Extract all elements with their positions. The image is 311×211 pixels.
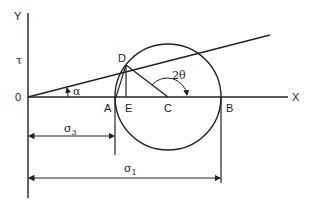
origin-label: 0 bbox=[15, 91, 21, 103]
point-d-label: D bbox=[118, 52, 126, 64]
sigma3-label: σ3 bbox=[64, 122, 77, 137]
x-axis-label: X bbox=[292, 91, 300, 103]
sigma3-subscript: 3 bbox=[72, 128, 77, 137]
y-axis-label: Y bbox=[14, 10, 22, 22]
tangent-line bbox=[28, 35, 270, 97]
alpha-label: α bbox=[73, 85, 81, 98]
point-e-label: E bbox=[125, 102, 132, 114]
tau-label: τ bbox=[16, 54, 22, 67]
point-c-label: C bbox=[164, 102, 172, 114]
two-theta-label: 2θ bbox=[172, 69, 186, 82]
point-b-label: B bbox=[226, 102, 233, 114]
mohr-circle-diagram: Y X 0 τ D A E C B α 2θ σ3 σ1 bbox=[0, 0, 311, 211]
sigma1-label: σ1 bbox=[124, 162, 137, 177]
sigma1-subscript: 1 bbox=[132, 168, 137, 177]
alpha-arc bbox=[67, 88, 68, 97]
radius-dc bbox=[126, 65, 168, 97]
point-a-label: A bbox=[104, 102, 112, 114]
